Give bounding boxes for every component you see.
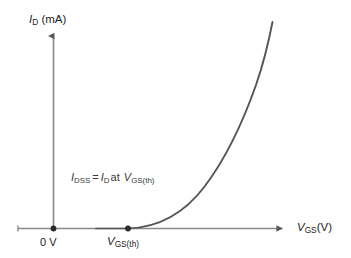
x-axis-subscript: GS [305,226,317,235]
annotation-connector: at [110,171,121,183]
y-axis-label: ID (mA) [29,14,66,26]
annotation-lead-subscript: DSS [74,176,90,185]
annotation-equals: = [90,171,100,183]
x-axis-unit: (V) [317,221,332,233]
threshold-symbol: V [107,235,115,247]
origin-label: 0 V [40,237,57,248]
y-axis-subscript: D [32,18,38,27]
y-axis-unit: (mA) [41,13,66,25]
threshold-voltage-label: VGS(th) [107,236,139,248]
threshold-subscript: GS(th) [115,240,139,249]
origin-marker-dot [51,226,57,232]
transfer-characteristic-figure: ID (mA) VGS(V) 0 V VGS(th) IDSS=IDat VGS… [0,0,351,258]
x-axis-symbol: V [297,221,305,233]
annotation-mid-subscript: D [104,176,110,185]
annotation-tail-subscript: GS(th) [131,176,154,185]
idss-annotation: IDSS=IDat VGS(th) [71,172,154,183]
x-axis-label: VGS(V) [297,222,332,234]
drain-current-curve [128,22,273,229]
plot-canvas [0,0,351,258]
threshold-marker-dot [125,226,131,232]
